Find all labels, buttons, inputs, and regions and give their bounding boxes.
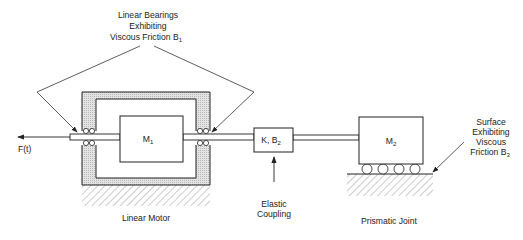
surface-annotation-line-3: Viscous: [476, 137, 506, 147]
coupling-caption-line-1: Elastic: [261, 199, 287, 209]
surface-annotation-line-1: Surface: [476, 117, 506, 127]
bearings-annotation-line-2: Exhibiting: [129, 21, 166, 31]
coupling-caption-line-2: Coupling: [257, 209, 291, 219]
shaft: [70, 134, 359, 140]
ground-hatch-right: [347, 174, 433, 196]
dynamics-diagram: Linear Bearings Exhibiting Viscous Frict…: [0, 0, 523, 240]
surface-annotation-line-2: Exhibiting: [472, 127, 509, 137]
bearings-annotation: Linear Bearings Exhibiting Viscous Frict…: [37, 10, 254, 132]
surface-pointer-arrow: [433, 142, 464, 172]
linear-motor-caption: Linear Motor: [122, 213, 170, 223]
force-label: F(t): [18, 144, 31, 154]
motor-ground-hatch: [82, 185, 210, 206]
bearings-annotation-line-3: Viscous Friction B1: [110, 32, 183, 43]
rollers: [362, 164, 420, 174]
surface-annotation: Surface Exhibiting Viscous Friction B3: [433, 117, 510, 172]
surface-annotation-line-4: Friction B3: [470, 147, 510, 158]
bearings-annotation-line-1: Linear Bearings: [118, 10, 178, 20]
prismatic-joint-caption: Prismatic Joint: [361, 216, 417, 226]
